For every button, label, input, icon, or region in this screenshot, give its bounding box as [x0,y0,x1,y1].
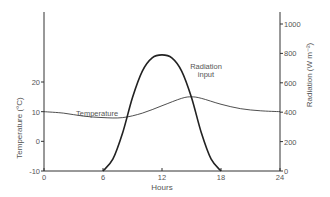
x-tick-label: 0 [42,173,46,182]
temperature-annotation: Temperature [76,109,118,118]
x-axis-label: Hours [151,183,172,192]
x-tick-label: 24 [276,173,284,182]
x-tick-label: 12 [158,173,166,182]
y-right-tick-label: 200 [284,138,297,147]
y-right-tick-label: 1000 [284,20,301,29]
y-left-tick-label: 10 [32,108,40,117]
y-left-axis-label: Temperature (°C) [15,97,24,159]
y-right-tick-label: 800 [284,49,297,58]
y-left-tick-label: 0 [36,137,40,146]
y-right-tick-label: 400 [284,108,297,117]
x-tick-label: 6 [101,173,105,182]
temperature-radiation-chart: -10010200200400600800100006121824 Hours … [0,0,330,197]
radiation-annotation-line2: input [198,70,215,79]
y-right-axis-label: Radiation (W m⁻²) [305,42,314,107]
y-right-tick-label: 0 [284,167,288,176]
y-left-tick-label: 20 [32,78,40,87]
y-left-tick-label: -10 [29,167,40,176]
y-right-tick-label: 600 [284,79,297,88]
axes: -10010200200400600800100006121824 [29,12,301,182]
x-tick-label: 18 [217,173,225,182]
